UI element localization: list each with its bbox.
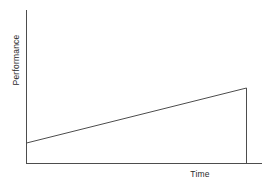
chart-canvas: Performance Time <box>0 0 275 184</box>
chart-background <box>0 0 275 184</box>
chart-figure: Performance Time <box>0 0 275 184</box>
x-axis-label: Time <box>190 169 209 179</box>
y-axis-label: Performance <box>11 34 21 85</box>
